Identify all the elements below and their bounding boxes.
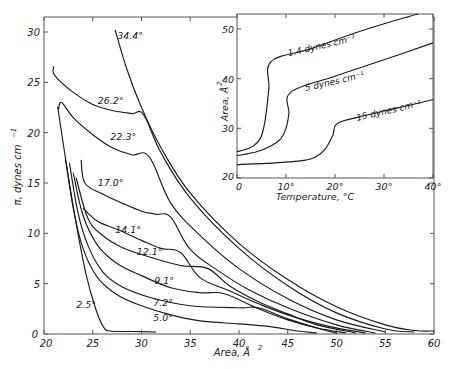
y-axis-label: π, dynes cm bbox=[12, 144, 23, 205]
x-tick-label: 20 bbox=[40, 338, 53, 349]
isotherm-label: 34.4° bbox=[117, 30, 143, 41]
y-tick-label: 30 bbox=[27, 27, 40, 38]
y-tick-label: 10 bbox=[27, 228, 40, 239]
inset-x-axis-label: Temperature, °C bbox=[276, 191, 355, 202]
x-tick-label: 35 bbox=[184, 338, 197, 349]
x-axis-label: Area, Å bbox=[213, 346, 251, 358]
inset-x-tick-label: 30° bbox=[376, 181, 393, 192]
isotherm-label: 17.0° bbox=[98, 177, 124, 188]
inset-y-tick-label: 50 bbox=[222, 24, 234, 35]
isotherm-label: 2.5° bbox=[76, 299, 96, 310]
x-tick-label: 50 bbox=[330, 338, 343, 349]
isotherm-curve bbox=[58, 107, 157, 333]
inset-y-axis-label-sup: 2 bbox=[216, 81, 224, 86]
y-tick-label: 25 bbox=[27, 77, 40, 88]
isotherm-label: 26.2° bbox=[98, 95, 124, 106]
y-tick-label: 5 bbox=[34, 279, 40, 290]
isotherm-label: 9.1° bbox=[154, 275, 174, 286]
y-axis-label-sup: −1 bbox=[10, 128, 18, 138]
figure: 202530354045505560510152025300Area, Å2π,… bbox=[0, 0, 453, 369]
y-tick-label-zero: 0 bbox=[32, 329, 38, 340]
isotherm-curve bbox=[69, 163, 336, 333]
x-tick-label: 55 bbox=[379, 338, 392, 349]
x-tick-label: 30 bbox=[135, 338, 148, 349]
inset-y-tick-label: 30 bbox=[222, 123, 234, 134]
y-tick-label: 15 bbox=[27, 178, 40, 189]
inset-plot-area-vs-temperature: 010°20°30°40°30405020Temperature, °CArea… bbox=[216, 14, 441, 202]
x-tick-label: 25 bbox=[86, 338, 99, 349]
inset-x-tick-label: 40° bbox=[425, 181, 442, 192]
isotherm-label: 14.1° bbox=[115, 224, 141, 235]
y-tick-label: 20 bbox=[27, 128, 40, 139]
inset-y-tick-label-20: 20 bbox=[222, 171, 234, 182]
x-axis-label-sup: 2 bbox=[258, 344, 263, 352]
inset-x-tick-label: 0 bbox=[236, 181, 242, 192]
isotherm-label: 22.3° bbox=[110, 131, 136, 142]
inset-y-axis-label: Area, Å bbox=[219, 87, 230, 123]
isotherm-label: 7.2° bbox=[153, 297, 173, 308]
x-tick-label: 60 bbox=[428, 338, 441, 349]
isotherm-label: 5.0° bbox=[153, 312, 173, 323]
x-tick-label: 45 bbox=[281, 338, 294, 349]
